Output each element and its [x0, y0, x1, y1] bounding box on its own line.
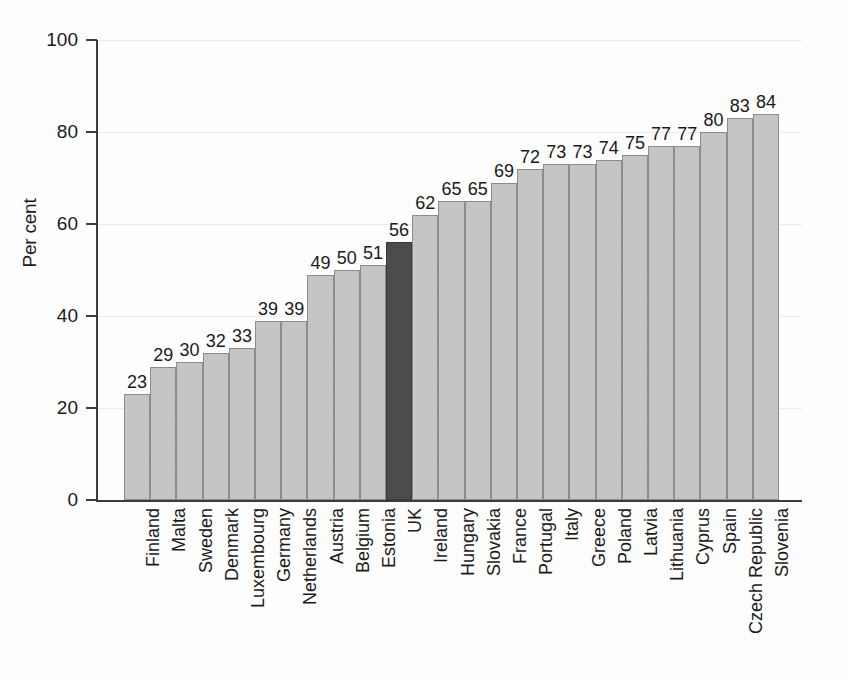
bar-slovenia[interactable] [753, 114, 779, 500]
bar-group[interactable]: 51 [360, 40, 386, 500]
x-label-finland: Finland [144, 508, 162, 567]
bar-sweden[interactable] [176, 362, 202, 500]
bar-italy[interactable] [543, 164, 569, 500]
bar-cyprus[interactable] [674, 146, 700, 500]
bar-group[interactable]: 80 [700, 40, 726, 500]
bar-value-spain: 80 [703, 111, 723, 129]
bar-group[interactable]: 65 [438, 40, 464, 500]
bar-value-slovenia: 84 [756, 93, 776, 111]
bar-austria[interactable] [307, 275, 333, 500]
bar-malta[interactable] [150, 367, 176, 500]
bar-value-slovakia: 65 [468, 180, 488, 198]
y-tick-label-100: 100 [8, 30, 78, 49]
bar-group[interactable]: 75 [622, 40, 648, 500]
x-label-lithuania: Lithuania [668, 508, 686, 581]
bar-group[interactable]: 32 [203, 40, 229, 500]
bar-group[interactable]: 56 [386, 40, 412, 500]
x-label-poland: Poland [616, 508, 634, 564]
x-label-france: France [511, 508, 529, 564]
bar-spain[interactable] [700, 132, 726, 500]
x-label-sweden: Sweden [197, 508, 215, 573]
bar-luxembourg[interactable] [229, 348, 255, 500]
bar-chart: Per cent 020406080100 232930323339394950… [0, 0, 848, 679]
x-label-cyprus: Cyprus [694, 508, 712, 565]
bar-value-poland: 74 [599, 139, 619, 157]
bar-denmark[interactable] [203, 353, 229, 500]
bar-slovakia[interactable] [465, 201, 491, 500]
bar-group[interactable]: 62 [412, 40, 438, 500]
x-label-luxembourg: Luxembourg [249, 508, 267, 608]
bar-group[interactable]: 33 [229, 40, 255, 500]
x-label-austria: Austria [328, 508, 346, 564]
bar-group[interactable]: 23 [124, 40, 150, 500]
bar-value-sweden: 30 [179, 341, 199, 359]
bar-group[interactable]: 77 [648, 40, 674, 500]
bar-belgium[interactable] [334, 270, 360, 500]
bar-group[interactable]: 50 [334, 40, 360, 500]
plot-area: 2329303233393949505156626565697273737475… [98, 40, 802, 500]
x-label-latvia: Latvia [642, 508, 660, 556]
bar-group[interactable]: 73 [569, 40, 595, 500]
x-label-uk: UK [406, 508, 424, 533]
bar-greece[interactable] [569, 164, 595, 500]
y-tick-0 [86, 499, 97, 501]
bar-group[interactable]: 29 [150, 40, 176, 500]
x-label-slovenia: Slovenia [773, 508, 791, 577]
y-tick-40 [86, 315, 97, 317]
bar-group[interactable]: 72 [517, 40, 543, 500]
bar-lithuania[interactable] [648, 146, 674, 500]
bar-ireland[interactable] [412, 215, 438, 500]
bar-value-greece: 73 [572, 143, 592, 161]
bar-value-ireland: 62 [415, 194, 435, 212]
bar-group[interactable]: 30 [176, 40, 202, 500]
x-label-estonia: Estonia [380, 508, 398, 568]
bar-group[interactable]: 65 [465, 40, 491, 500]
bar-germany[interactable] [255, 321, 281, 500]
bar-finland[interactable] [124, 394, 150, 500]
x-label-portugal: Portugal [537, 508, 555, 575]
bar-value-malta: 29 [153, 346, 173, 364]
x-label-spain: Spain [721, 508, 739, 554]
y-tick-label-40: 40 [8, 306, 78, 325]
bar-value-cyprus: 77 [677, 125, 697, 143]
bar-group[interactable]: 39 [281, 40, 307, 500]
bar-poland[interactable] [596, 160, 622, 500]
bar-value-france: 69 [494, 162, 514, 180]
bar-france[interactable] [491, 183, 517, 500]
y-tick-label-80: 80 [8, 122, 78, 141]
bar-value-austria: 49 [310, 254, 330, 272]
x-label-slovakia: Slovakia [485, 508, 503, 576]
bar-portugal[interactable] [517, 169, 543, 500]
bar-value-estonia: 51 [363, 244, 383, 262]
bar-hungary[interactable] [438, 201, 464, 500]
x-axis-line [96, 500, 802, 502]
bar-value-denmark: 32 [206, 332, 226, 350]
x-label-hungary: Hungary [459, 508, 477, 576]
bar-uk[interactable] [386, 242, 412, 500]
bar-group[interactable]: 73 [543, 40, 569, 500]
bar-value-finland: 23 [127, 373, 147, 391]
y-tick-20 [86, 407, 97, 409]
x-label-ireland: Ireland [432, 508, 450, 563]
x-label-netherlands: Netherlands [301, 508, 319, 605]
bar-value-latvia: 75 [625, 134, 645, 152]
bar-value-belgium: 50 [337, 249, 357, 267]
bar-value-lithuania: 77 [651, 125, 671, 143]
bar-latvia[interactable] [622, 155, 648, 500]
bar-group[interactable]: 49 [307, 40, 333, 500]
bar-group[interactable]: 84 [753, 40, 779, 500]
bar-group[interactable]: 77 [674, 40, 700, 500]
x-label-germany: Germany [275, 508, 293, 582]
bar-group[interactable]: 39 [255, 40, 281, 500]
bar-value-netherlands: 39 [284, 300, 304, 318]
x-label-malta: Malta [170, 508, 188, 552]
x-label-belgium: Belgium [354, 508, 372, 573]
y-tick-label-60: 60 [8, 214, 78, 233]
bar-czech-republic[interactable] [727, 118, 753, 500]
x-label-italy: Italy [563, 508, 581, 541]
bar-estonia[interactable] [360, 265, 386, 500]
bar-group[interactable]: 74 [596, 40, 622, 500]
bar-netherlands[interactable] [281, 321, 307, 500]
bar-group[interactable]: 83 [727, 40, 753, 500]
bar-group[interactable]: 69 [491, 40, 517, 500]
